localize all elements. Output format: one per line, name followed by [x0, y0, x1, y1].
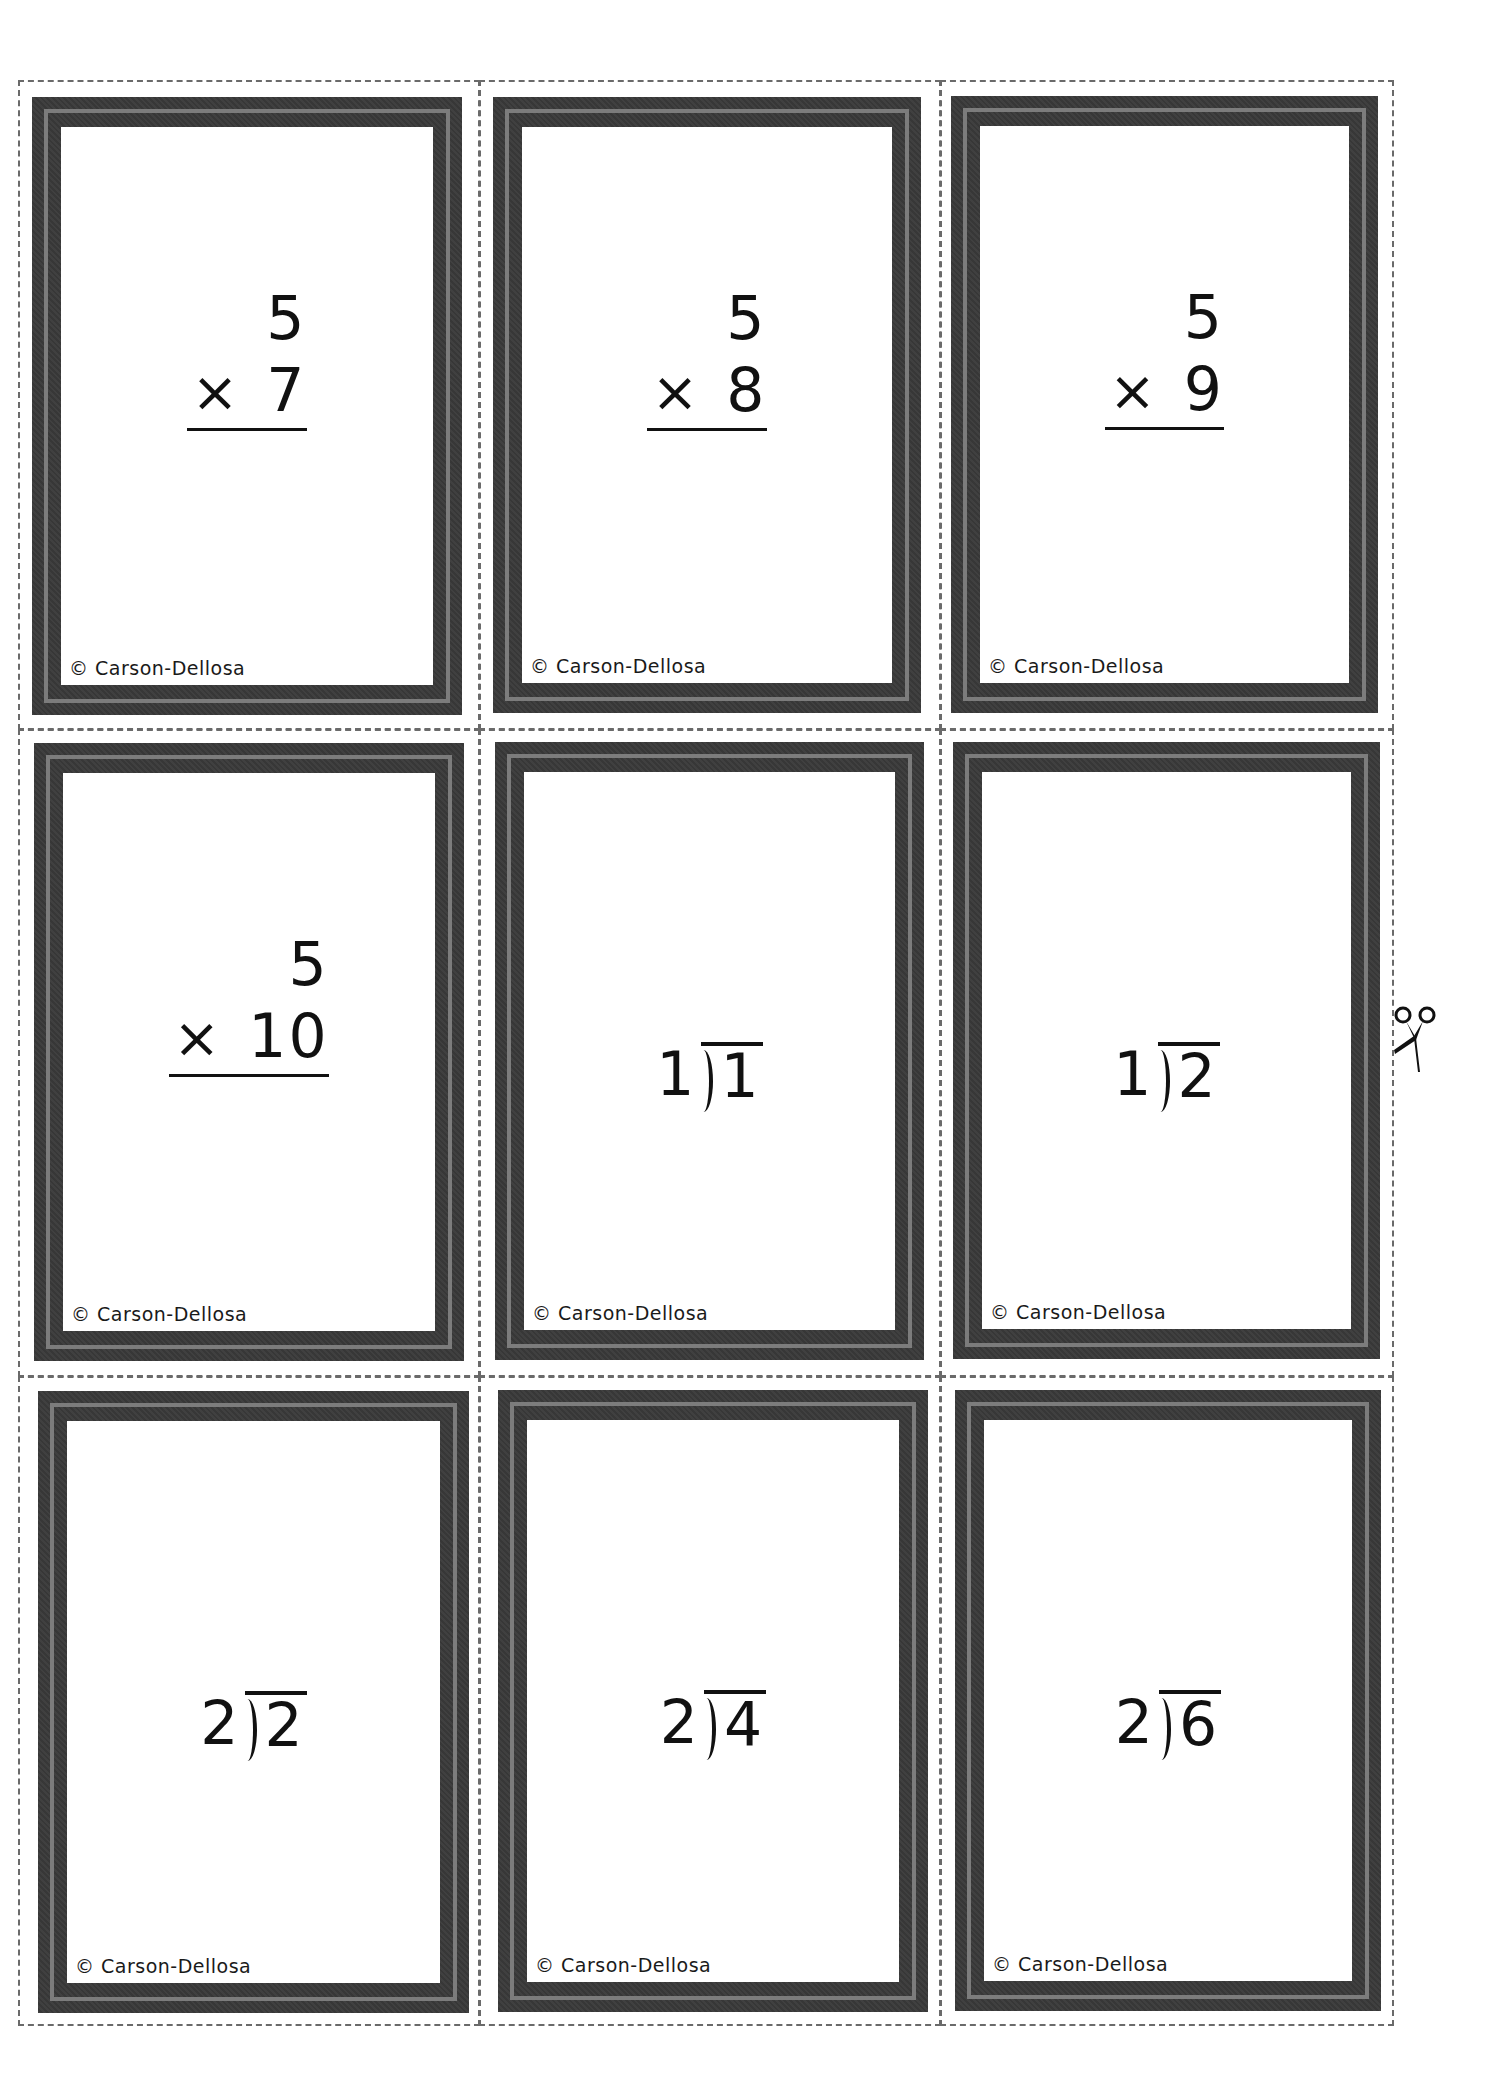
copyright-text: © Carson-Dellosa — [990, 1301, 1166, 1323]
flashcard[interactable]: 5 ×8 © Carson-Dellosa — [493, 97, 921, 713]
multiplication-problem: 5 ×10 — [63, 928, 435, 1077]
multiplier: 8 — [726, 355, 766, 425]
card-face: 5 ×8 © Carson-Dellosa — [522, 127, 892, 683]
multiplication-problem: 5 ×9 — [980, 281, 1349, 430]
multiplicand: 5 — [187, 282, 306, 354]
flashcard[interactable]: 26 © Carson-Dellosa — [955, 1390, 1381, 2011]
copyright-text: © Carson-Dellosa — [988, 655, 1164, 677]
times-operator: × — [651, 359, 700, 424]
multiplicand: 5 — [647, 282, 766, 354]
flashcard[interactable]: 22 © Carson-Dellosa — [38, 1391, 469, 2013]
division-bracket — [241, 1699, 257, 1761]
flashcard[interactable]: 24 © Carson-Dellosa — [498, 1390, 928, 2012]
copyright-text: © Carson-Dellosa — [69, 657, 245, 679]
multiplier: 10 — [248, 1001, 328, 1071]
copyright-text: © Carson-Dellosa — [530, 655, 706, 677]
divisor: 2 — [660, 1690, 700, 1754]
divisor: 1 — [656, 1042, 696, 1106]
card-face: 26 © Carson-Dellosa — [984, 1420, 1352, 1981]
division-problem: 22 — [67, 1691, 440, 1755]
divisor: 2 — [200, 1691, 240, 1755]
divisor: 2 — [1115, 1690, 1155, 1754]
copyright-text: © Carson-Dellosa — [532, 1302, 708, 1324]
division-problem: 24 — [527, 1690, 899, 1754]
flashcard[interactable]: 12 © Carson-Dellosa — [953, 742, 1380, 1359]
division-problem: 26 — [984, 1690, 1352, 1754]
flashcard[interactable]: 5 ×9 © Carson-Dellosa — [951, 96, 1378, 713]
times-operator: × — [173, 1005, 222, 1070]
multiplicand: 5 — [1105, 281, 1224, 353]
division-bracket — [697, 1050, 713, 1112]
flashcard[interactable]: 11 © Carson-Dellosa — [495, 742, 924, 1360]
flashcard[interactable]: 5 ×7 © Carson-Dellosa — [32, 97, 462, 715]
times-operator: × — [1109, 358, 1158, 423]
copyright-text: © Carson-Dellosa — [535, 1954, 711, 1976]
multiplier-row: ×10 — [169, 1000, 328, 1077]
times-operator: × — [191, 359, 240, 424]
multiplication-problem: 5 ×7 — [61, 282, 433, 431]
flashcard-sheet: 5 ×7 © Carson-Dellosa 5 ×8 © Carson-Dell… — [18, 80, 1394, 2026]
flashcard[interactable]: 5 ×10 © Carson-Dellosa — [34, 743, 464, 1361]
card-face: 5 ×9 © Carson-Dellosa — [980, 126, 1349, 683]
card-face: 24 © Carson-Dellosa — [527, 1420, 899, 1982]
multiplier-row: ×7 — [187, 354, 306, 431]
division-problem: 12 — [982, 1042, 1351, 1106]
multiplier: 9 — [1184, 354, 1224, 424]
multiplication-problem: 5 ×8 — [522, 282, 892, 431]
copyright-text: © Carson-Dellosa — [992, 1953, 1168, 1975]
card-face: 5 ×7 © Carson-Dellosa — [61, 127, 433, 685]
card-face: 22 © Carson-Dellosa — [67, 1421, 440, 1983]
card-face: 5 ×10 © Carson-Dellosa — [63, 773, 435, 1331]
scissors-icon — [1392, 1002, 1440, 1082]
multiplier: 7 — [266, 355, 306, 425]
division-problem: 11 — [524, 1042, 895, 1106]
copyright-text: © Carson-Dellosa — [75, 1955, 251, 1977]
card-face: 12 © Carson-Dellosa — [982, 772, 1351, 1329]
division-bracket — [1154, 1050, 1170, 1112]
divisor: 1 — [1113, 1042, 1153, 1106]
card-face: 11 © Carson-Dellosa — [524, 772, 895, 1330]
multiplicand: 5 — [169, 928, 328, 1000]
multiplier-row: ×8 — [647, 354, 766, 431]
multiplier-row: ×9 — [1105, 353, 1224, 430]
copyright-text: © Carson-Dellosa — [71, 1303, 247, 1325]
